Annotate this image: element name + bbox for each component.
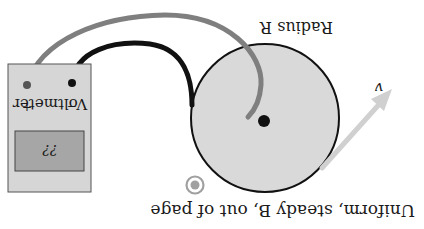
radius-label: Radius R [259, 18, 333, 37]
minus-terminal [68, 79, 76, 87]
plus-terminal [23, 81, 31, 89]
center-contact-dot [258, 115, 270, 127]
plus-terminal-label: + [22, 100, 32, 114]
voltmeter: ?? Voltmeter + − [8, 64, 91, 192]
voltmeter-body [8, 64, 91, 192]
field-caption: Uniform, steady B, out of page [150, 201, 415, 221]
field-out-of-page-icon [187, 177, 204, 194]
minus-terminal-label: − [67, 100, 77, 114]
voltmeter-readout: ?? [42, 142, 58, 158]
diagram-canvas: v Radius R ?? Voltmeter + − Uniform, ste… [0, 0, 424, 229]
motional-emf-disc-diagram: v Radius R ?? Voltmeter + − Uniform, ste… [0, 0, 424, 229]
velocity-label: v [374, 79, 383, 97]
